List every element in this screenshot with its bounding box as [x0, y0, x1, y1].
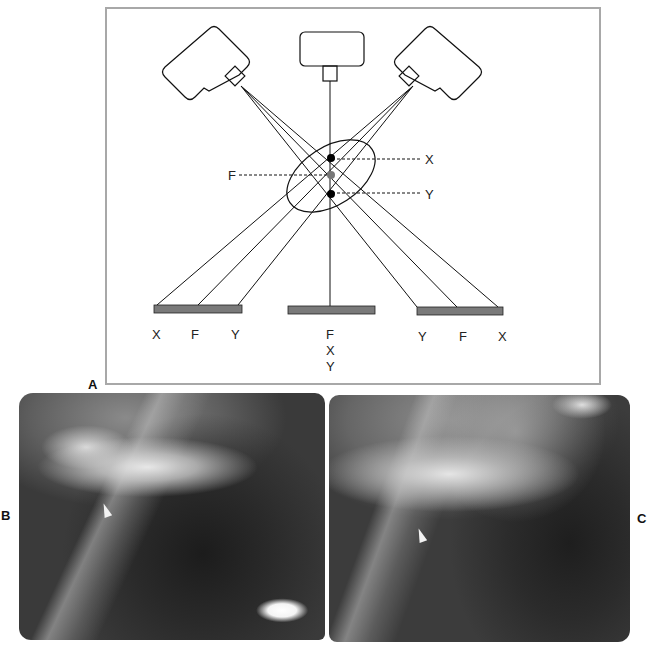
right-film-label-2: F [459, 329, 467, 344]
center-film [288, 306, 375, 314]
point-x [327, 154, 335, 162]
left-tube-icon [163, 27, 250, 100]
right-film [417, 307, 503, 315]
center-tube-icon [300, 32, 364, 81]
right-film-label-1: Y [418, 329, 427, 344]
panel-label-a: A [88, 377, 97, 392]
left-film-label-3: Y [231, 327, 240, 342]
arrowhead-marker-icon [415, 527, 427, 543]
panel-label-c: C [637, 511, 646, 526]
label-x-right: X [425, 152, 434, 167]
diagram-panel-a: X F Y X F Y F X Y Y F X [105, 7, 601, 385]
label-f-left: F [228, 168, 236, 183]
radiograph-c [329, 395, 630, 642]
right-tube-icon [395, 27, 482, 100]
label-y-right: Y [425, 187, 434, 202]
right-film-label-3: X [498, 329, 507, 344]
radiograph-b [19, 393, 325, 640]
center-film-label-2: X [326, 343, 335, 358]
left-film-label-1: X [152, 327, 161, 342]
arrowhead-marker-icon [100, 502, 112, 518]
panel-label-b: B [1, 508, 10, 523]
left-film-label-2: F [191, 327, 199, 342]
center-film-label-3: Y [326, 359, 335, 374]
point-y [327, 190, 335, 198]
point-f [327, 171, 335, 179]
left-film [154, 305, 242, 313]
center-film-label-1: F [326, 327, 334, 342]
tomography-diagram [107, 9, 599, 383]
